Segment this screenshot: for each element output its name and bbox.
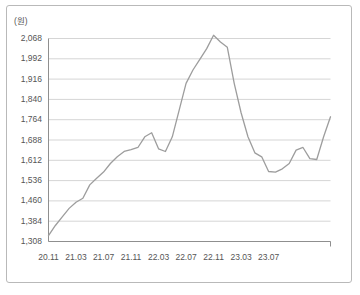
y-axis-tick-label: 1,460	[8, 195, 42, 205]
y-axis-tick-label: 1,308	[8, 236, 42, 246]
axes	[49, 39, 331, 247]
y-axis-tick-label: 1,764	[8, 114, 42, 124]
y-axis-tick-label: 1,536	[8, 175, 42, 185]
gridlines	[49, 39, 331, 242]
y-axis-tick-label: 1,688	[8, 135, 42, 145]
y-axis-tick-label: 1,992	[8, 53, 42, 63]
line-chart	[0, 0, 360, 295]
series-line	[49, 35, 331, 235]
y-axis-tick-label: 2,068	[8, 33, 42, 43]
y-axis-tick-label: 1,840	[8, 94, 42, 104]
y-axis-tick-label: 1,384	[8, 216, 42, 226]
y-axis-tick-label: 1,612	[8, 155, 42, 165]
x-axis-tick-label: 23.07	[249, 252, 289, 262]
y-axis-tick-label: 1,916	[8, 74, 42, 84]
